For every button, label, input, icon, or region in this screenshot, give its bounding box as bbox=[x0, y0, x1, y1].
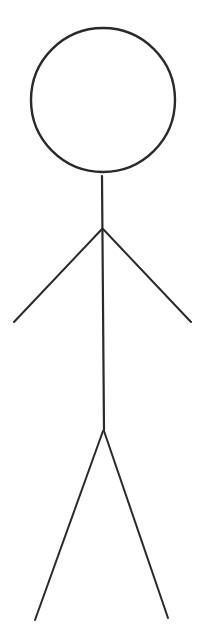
right-leg bbox=[104, 431, 168, 618]
torso bbox=[102, 176, 104, 430]
left-leg bbox=[35, 431, 103, 620]
head bbox=[31, 28, 175, 172]
left-arm bbox=[14, 229, 102, 322]
right-arm bbox=[103, 229, 191, 322]
stick-figure bbox=[0, 0, 202, 644]
drawing-canvas bbox=[0, 0, 202, 644]
